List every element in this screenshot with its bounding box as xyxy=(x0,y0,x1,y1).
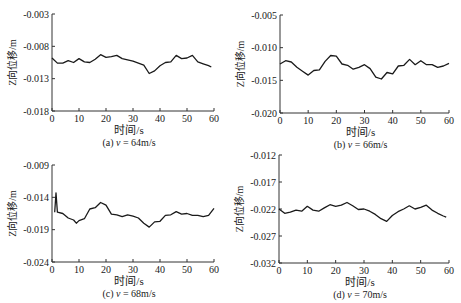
y-axis-label: Z向位移/m xyxy=(6,190,18,237)
chart-panel-a: -0.018-0.013-0.008-0.0030102030405060Z向位… xyxy=(6,9,219,150)
y-tick-label: -0.009 xyxy=(23,160,49,171)
x-tick-label: 30 xyxy=(360,115,370,126)
y-tick-label: -0.032 xyxy=(250,258,276,269)
y-axis-label: Z向位移/m xyxy=(234,40,246,87)
x-tick-label: 20 xyxy=(331,265,341,276)
x-tick-label: 0 xyxy=(50,264,55,275)
data-series-line xyxy=(52,55,211,74)
y-axis-label: Z向位移/m xyxy=(233,185,245,232)
x-tick-label: 60 xyxy=(444,115,454,126)
data-series-line xyxy=(280,56,449,80)
y-tick-label: -0.014 xyxy=(23,192,49,203)
x-tick-label: 50 xyxy=(416,265,426,276)
x-tick-label: 30 xyxy=(359,265,369,276)
figure-grid: -0.018-0.013-0.008-0.0030102030405060Z向位… xyxy=(0,0,461,303)
x-tick-label: 40 xyxy=(388,115,398,126)
x-tick-label: 60 xyxy=(444,265,454,276)
x-axis-label: 时间/s xyxy=(114,124,143,136)
y-tick-label: -0.019 xyxy=(23,224,49,235)
y-tick-label: -0.013 xyxy=(23,73,49,84)
chart-panel-b: -0.020-0.015-0.010-0.0050102030405060Z向位… xyxy=(234,10,454,152)
y-tick-label: -0.012 xyxy=(250,150,276,161)
y-tick-label: -0.010 xyxy=(251,42,277,53)
y-tick-label: -0.027 xyxy=(250,231,276,242)
x-axis-label: 时间/s xyxy=(114,275,143,287)
x-tick-label: 40 xyxy=(387,265,397,276)
x-tick-label: 60 xyxy=(209,264,219,275)
y-tick-label: -0.017 xyxy=(250,177,276,188)
x-tick-label: 20 xyxy=(101,264,111,275)
x-axis-label: 时间/s xyxy=(346,126,375,138)
x-axis-label: 时间/s xyxy=(345,276,374,288)
x-tick-label: 0 xyxy=(278,115,283,126)
x-tick-label: 50 xyxy=(182,264,192,275)
x-tick-label: 20 xyxy=(331,115,341,126)
panel-caption: (d) v = 70m/s xyxy=(333,289,387,301)
y-tick-label: -0.020 xyxy=(251,108,277,119)
x-tick-label: 20 xyxy=(101,113,111,124)
x-tick-label: 60 xyxy=(209,113,219,124)
y-tick-label: -0.018 xyxy=(23,106,49,117)
panel-caption: (c) v = 68m/s xyxy=(102,288,155,300)
x-tick-label: 0 xyxy=(277,265,282,276)
y-axis-label: Z向位移/m xyxy=(6,39,18,86)
chart-canvas: -0.018-0.013-0.008-0.0030102030405060Z向位… xyxy=(0,0,461,303)
x-tick-label: 30 xyxy=(128,264,138,275)
y-tick-label: -0.008 xyxy=(23,41,49,52)
y-tick-label: -0.003 xyxy=(23,9,49,20)
y-tick-label: -0.022 xyxy=(250,204,276,215)
x-tick-label: 50 xyxy=(416,115,426,126)
panel-caption: (a) v = 64m/s xyxy=(102,137,155,149)
x-tick-label: 10 xyxy=(303,115,313,126)
y-tick-label: -0.005 xyxy=(251,10,277,21)
data-series-line xyxy=(55,193,214,227)
chart-panel-d: -0.032-0.027-0.022-0.017-0.0120102030405… xyxy=(233,150,454,302)
x-tick-label: 50 xyxy=(182,113,192,124)
data-series-line xyxy=(279,203,446,222)
chart-panel-c: -0.024-0.019-0.014-0.0090102030405060Z向位… xyxy=(6,160,219,301)
x-tick-label: 0 xyxy=(50,113,55,124)
x-tick-label: 40 xyxy=(155,113,165,124)
x-tick-label: 10 xyxy=(74,113,84,124)
panel-caption: (b) v = 66m/s xyxy=(334,139,388,151)
x-tick-label: 40 xyxy=(155,264,165,275)
x-tick-label: 30 xyxy=(128,113,138,124)
y-tick-label: -0.024 xyxy=(23,257,49,268)
x-tick-label: 10 xyxy=(74,264,84,275)
x-tick-label: 10 xyxy=(302,265,312,276)
y-tick-label: -0.015 xyxy=(251,75,277,86)
